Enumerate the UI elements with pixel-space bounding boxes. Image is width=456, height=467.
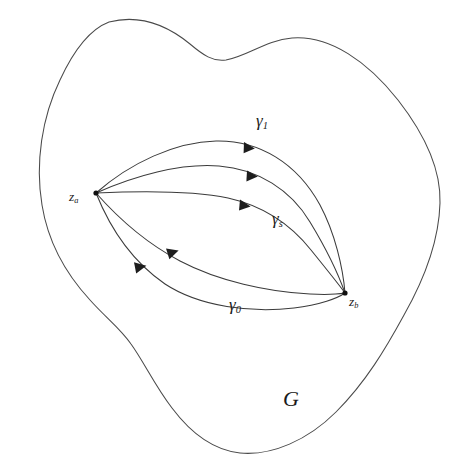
label-gamma-s-base: γ	[272, 209, 279, 228]
label-gamma-s: γs	[272, 210, 283, 229]
label-gamma-1: γ1	[256, 112, 268, 131]
vertex-za-dot	[93, 190, 98, 195]
diagram-svg	[0, 0, 456, 467]
arrowhead-curve-2	[246, 171, 257, 182]
label-gamma-1-subscript: 1	[263, 120, 268, 131]
curve-4	[96, 193, 345, 294]
vertex-zb-dot	[342, 290, 347, 295]
figure-canvas: γ1 γs γ0 za zb G	[0, 0, 456, 467]
label-gamma-0-subscript: 0	[236, 304, 241, 315]
arrowhead-gamma-s	[239, 200, 251, 211]
arrowhead-curve-4	[166, 248, 179, 259]
label-gamma-s-subscript: s	[279, 218, 283, 229]
label-gamma-0-base: γ	[229, 295, 236, 314]
label-point-za: za	[69, 190, 78, 206]
label-point-zb: zb	[349, 295, 358, 311]
label-gamma-1-base: γ	[256, 111, 263, 130]
curve-gamma-0	[96, 193, 345, 310]
label-zb-subscript: b	[354, 301, 358, 310]
label-za-subscript: a	[74, 196, 78, 205]
region-boundary-path	[39, 19, 440, 453]
arrowhead-gamma-1	[244, 142, 255, 153]
label-gamma-0: γ0	[229, 296, 241, 315]
curve-gamma-1	[96, 141, 345, 293]
label-region-g: G	[283, 388, 299, 410]
